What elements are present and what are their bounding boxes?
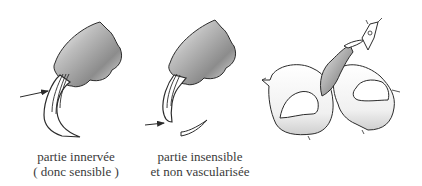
caption-line-1: partie insensible	[140, 149, 260, 164]
claw-extended	[344, 40, 364, 48]
caption-insensible: partie insensible et non vascularisée	[140, 149, 260, 179]
clipped-claw-tip	[181, 120, 207, 136]
arrow-quick	[20, 91, 48, 97]
nail-clipper-icon	[362, 18, 382, 50]
toe-shape	[169, 20, 236, 85]
caption-line-1: partie innervée	[22, 149, 130, 164]
claw-trimmed	[163, 75, 186, 122]
arrow-cut-point	[145, 123, 164, 125]
toe-shape	[54, 22, 122, 87]
caption-innervated: partie innervée ( donc sensible )	[22, 149, 130, 179]
toe-trimmed-claw-panel	[145, 20, 236, 136]
caption-line-2: ( donc sensible )	[22, 164, 130, 179]
caption-line-2: et non vascularisée	[140, 164, 260, 179]
paws-with-clipper-panel	[262, 18, 400, 140]
toe-with-claw-panel	[20, 22, 122, 137]
